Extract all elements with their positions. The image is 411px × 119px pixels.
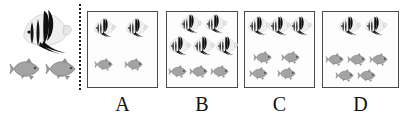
grayfish-icon xyxy=(326,53,345,66)
angelfish-icon xyxy=(177,13,203,35)
option-box-a[interactable] xyxy=(87,11,158,88)
angelfish-icon xyxy=(213,35,239,57)
angelfish-icon xyxy=(336,15,362,37)
option-box-b[interactable] xyxy=(166,11,238,88)
angelfish-icon xyxy=(123,17,149,39)
angelfish-icon xyxy=(202,13,228,35)
grayfish-icon xyxy=(250,67,269,80)
angelfish-icon xyxy=(16,8,74,56)
grayfish-icon xyxy=(348,53,367,66)
grayfish-icon xyxy=(10,58,42,80)
grayfish-icon xyxy=(169,65,188,78)
option-fish-layer xyxy=(166,11,238,88)
grayfish-icon xyxy=(282,51,301,64)
grayfish-icon xyxy=(190,65,209,78)
grayfish-icon xyxy=(278,67,297,80)
reference-group xyxy=(0,0,80,92)
grayfish-icon xyxy=(336,69,355,82)
grayfish-icon xyxy=(125,58,144,71)
grayfish-icon xyxy=(46,58,78,80)
angelfish-icon xyxy=(362,15,388,37)
angelfish-icon xyxy=(287,15,313,37)
option-box-d[interactable] xyxy=(322,11,399,88)
grayfish-icon xyxy=(211,65,230,78)
grayfish-icon xyxy=(95,58,114,71)
option-fish-layer xyxy=(322,11,399,88)
option-fish-layer xyxy=(244,11,315,88)
angelfish-icon xyxy=(91,17,117,39)
angelfish-icon xyxy=(166,35,192,57)
option-box-c[interactable] xyxy=(244,11,315,88)
option-label-a: A xyxy=(87,91,158,117)
dotted-divider xyxy=(79,4,81,90)
option-label-c: C xyxy=(244,91,315,117)
figure-canvas: A B C D xyxy=(0,0,411,119)
grayfish-icon xyxy=(358,69,377,82)
grayfish-icon xyxy=(254,51,273,64)
grayfish-icon xyxy=(370,53,389,66)
option-label-d: D xyxy=(322,91,399,117)
option-label-b: B xyxy=(166,91,238,117)
reference-grayfish-row xyxy=(8,58,76,84)
option-fish-layer xyxy=(87,11,158,88)
